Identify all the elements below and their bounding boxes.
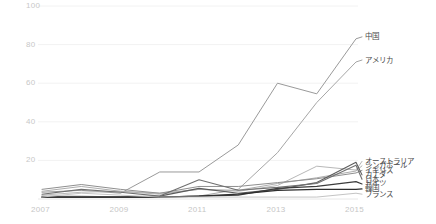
line-chart: 20406080100 20072009201120132015 中国アメリカオ… — [0, 0, 436, 224]
series-label-1: アメリカ — [365, 56, 393, 65]
x-tick-label-2013: 2013 — [267, 205, 286, 214]
series-line-0 — [42, 37, 362, 193]
x-tick-label-2015: 2015 — [345, 205, 364, 214]
x-tick-label-2007: 2007 — [31, 205, 50, 214]
y-tick-label-40: 40 — [26, 117, 36, 126]
series-label-0: 中国 — [365, 32, 379, 41]
y-tick-label-80: 80 — [26, 40, 36, 49]
x-tick-label-2009: 2009 — [110, 205, 129, 214]
series-lines — [42, 37, 362, 197]
y-tick-label-20: 20 — [26, 155, 36, 164]
series-line-1 — [42, 60, 362, 197]
series-label-9: フランス — [365, 190, 393, 199]
gridlines — [38, 6, 358, 160]
x-tick-label-2011: 2011 — [188, 205, 206, 214]
y-tick-label-60: 60 — [26, 78, 36, 87]
y-tick-label-100: 100 — [26, 1, 40, 10]
